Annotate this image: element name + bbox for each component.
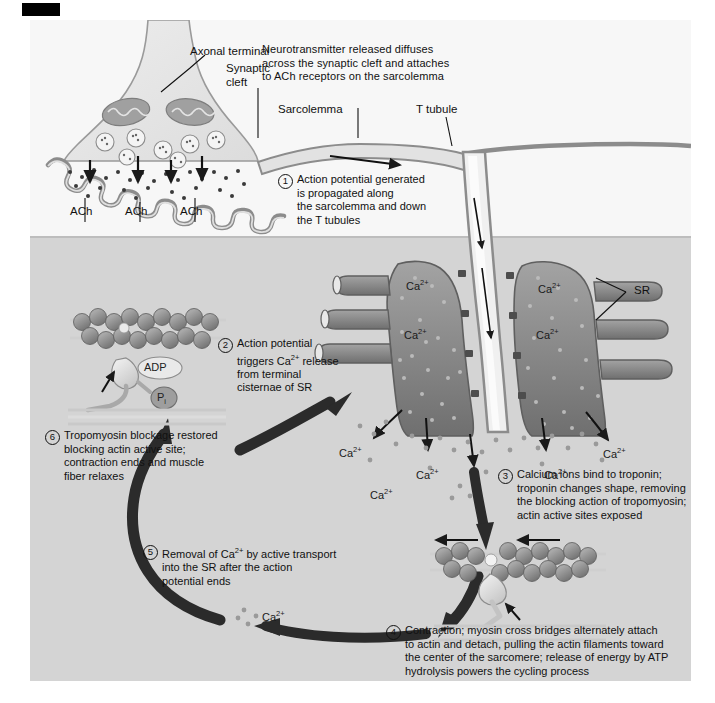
label-adp: ADP [144, 361, 167, 373]
ion-label-ca-5: Ca2+ [339, 444, 362, 459]
step-4: 4 Contraction; myosin cross bridges alte… [386, 624, 686, 678]
step-6: 6 Tropomyosin blockage restored blocking… [45, 429, 260, 483]
step-4-text: Contraction; myosin cross bridges altern… [405, 624, 668, 678]
step-6-number: 6 [45, 430, 60, 445]
step-1: 1 Action potential generated is propagat… [278, 173, 458, 227]
label-ach-2: ACh [125, 205, 147, 219]
label-synaptic-cleft: Synaptic cleft [226, 62, 270, 89]
ion-label-ca-10: Ca2+ [262, 608, 285, 623]
ion-label-ca-6: Ca2+ [416, 466, 439, 481]
step-2-text: Action potential triggers Ca2+ release f… [237, 337, 339, 395]
step-2-number: 2 [218, 338, 233, 353]
step-3-text: Calcium ions bind to troponin; troponin … [517, 468, 686, 522]
step-5: 5 Removal of Ca2+ by active transport in… [143, 544, 373, 588]
step-2: 2 Action potential triggers Ca2+ release… [218, 337, 368, 395]
intro-paragraph: Neurotransmitter released diffuses acros… [262, 43, 502, 84]
ion-label-ca-2: Ca2+ [404, 326, 427, 341]
ion-label-ca-4: Ca2+ [536, 326, 559, 341]
step-3: 3 Calcium ions bind to troponin; troponi… [498, 468, 691, 522]
step-6-text: Tropomyosin blockage restored blocking a… [64, 429, 218, 483]
label-ach-1: ACh [70, 205, 92, 219]
label-t-tubule: T tubule [416, 103, 457, 117]
step-5-number: 5 [143, 545, 158, 560]
label-sarcolemma: Sarcolemma [278, 103, 343, 117]
diagram-panel: Neurotransmitter released diffuses acros… [30, 20, 691, 681]
step-5-text: Removal of Ca2+ by active transport into… [162, 544, 336, 588]
ion-label-ca-3: Ca2+ [538, 280, 561, 295]
ion-label-ca-8: Ca2+ [603, 445, 626, 460]
label-axonal-terminal: Axonal terminal [190, 45, 269, 59]
figure-stage: Neurotransmitter released diffuses acros… [0, 0, 715, 703]
page-corner-marker [22, 3, 60, 16]
ion-label-ca-1: Ca2+ [406, 277, 429, 292]
step-4-number: 4 [386, 625, 401, 640]
label-ach-3: ACh [180, 205, 202, 219]
label-pi: Pi [157, 391, 166, 406]
ion-label-ca-9: Ca2+ [370, 486, 393, 501]
step-1-text: Action potential generated is propagated… [297, 173, 426, 227]
step-1-number: 1 [278, 174, 293, 189]
label-sr: SR [634, 284, 650, 298]
step-3-number: 3 [498, 469, 513, 484]
